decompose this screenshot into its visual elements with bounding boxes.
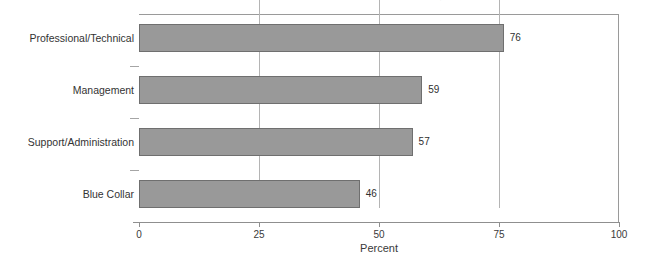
- x-tick-label-50: 50: [373, 229, 384, 240]
- bar: [139, 180, 360, 208]
- x-tick-label-25: 25: [253, 229, 264, 240]
- category-tick: [130, 66, 139, 67]
- x-axis-title: Percent: [360, 242, 398, 254]
- x-tick-100: [619, 222, 620, 227]
- bar-value-label: 76: [510, 24, 521, 52]
- category-label: Support/Administration: [28, 128, 134, 156]
- bar: [139, 128, 413, 156]
- x-tick-label-0: 0: [136, 229, 142, 240]
- category-tick: [130, 170, 139, 171]
- category-tick: [130, 118, 139, 119]
- category-label: Management: [73, 76, 134, 104]
- x-tick-0: [139, 222, 140, 227]
- bar-chart: 76595746 Professional/TechnicalManagemen…: [0, 0, 646, 263]
- bar-value-label: 57: [419, 128, 430, 156]
- x-tick-50: [379, 222, 380, 227]
- x-tick-label-75: 75: [493, 229, 504, 240]
- x-tick-75: [499, 222, 500, 227]
- bar-value-label: 46: [366, 180, 377, 208]
- bar: [139, 24, 504, 52]
- bar: [139, 76, 422, 104]
- category-label: Professional/Technical: [30, 24, 134, 52]
- bar-value-label: 59: [428, 76, 439, 104]
- category-label: Blue Collar: [83, 180, 134, 208]
- x-tick-25: [259, 222, 260, 227]
- x-axis-line: [133, 222, 619, 223]
- x-tick-label-100: 100: [611, 229, 628, 240]
